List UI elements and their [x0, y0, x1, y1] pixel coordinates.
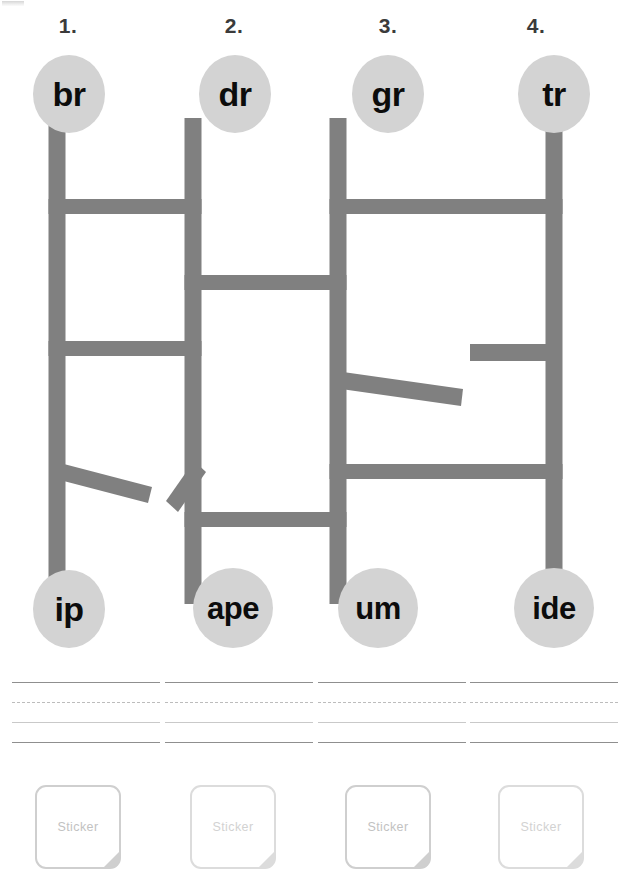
writing-line-base: [470, 742, 618, 743]
onset-label-3: gr: [372, 77, 405, 111]
maze-rung-3-4-lower: [330, 464, 563, 479]
rime-bubble-3[interactable]: um: [338, 568, 418, 648]
writing-lines-4[interactable]: [470, 682, 618, 744]
maze-diagonal-col3-right: [334, 371, 463, 406]
onset-bubble-3[interactable]: gr: [352, 55, 424, 133]
sticker-box-2[interactable]: Sticker: [190, 785, 276, 869]
onset-label-1: br: [53, 77, 86, 111]
writing-line-base: [165, 742, 313, 743]
writing-line-light: [318, 722, 466, 723]
writing-line-light: [12, 722, 160, 723]
writing-lines-1[interactable]: [12, 682, 160, 744]
writing-line-light: [470, 722, 618, 723]
maze-vertical-1: [49, 118, 66, 604]
page-fold-icon: [258, 851, 275, 868]
page-fold-icon: [413, 851, 430, 868]
writing-line-dashed: [318, 702, 466, 703]
onset-label-2: dr: [219, 77, 252, 111]
rime-bubble-1[interactable]: ip: [33, 570, 105, 648]
maze-rung-1-2-mid: [49, 341, 202, 356]
writing-lines-2[interactable]: [165, 682, 313, 744]
maze-path-graphic: [0, 0, 628, 889]
writing-line-dashed: [470, 702, 618, 703]
rime-label-1: ip: [54, 592, 83, 626]
writing-line-dashed: [165, 702, 313, 703]
writing-line-base: [318, 742, 466, 743]
sticker-box-4[interactable]: Sticker: [498, 785, 584, 869]
writing-line-top: [318, 682, 466, 683]
rime-bubble-4[interactable]: ide: [514, 568, 594, 648]
page-fold-icon: [566, 851, 583, 868]
maze-vertical-2: [185, 118, 202, 604]
writing-line-top: [165, 682, 313, 683]
page-fold-icon: [103, 851, 120, 868]
maze-vertical-3: [330, 118, 347, 604]
rime-label-3: um: [355, 593, 401, 624]
sticker-label: Sticker: [57, 820, 98, 834]
onset-bubble-4[interactable]: tr: [518, 55, 590, 133]
onset-bubble-1[interactable]: br: [33, 55, 105, 133]
rime-label-4: ide: [532, 593, 575, 624]
worksheet-page: 1. 2. 3. 4. br dr: [0, 0, 628, 889]
writing-line-top: [470, 682, 618, 683]
sticker-box-1[interactable]: Sticker: [35, 785, 121, 869]
writing-line-base: [12, 742, 160, 743]
rime-bubble-2[interactable]: ape: [193, 568, 273, 648]
writing-line-dashed: [12, 702, 160, 703]
writing-lines-3[interactable]: [318, 682, 466, 744]
sticker-label: Sticker: [212, 820, 253, 834]
maze-stub-col4-left: [470, 344, 562, 361]
maze-rung-2-3-lower: [185, 512, 347, 527]
maze-diagonal-col1-right: [56, 463, 152, 503]
sticker-box-3[interactable]: Sticker: [345, 785, 431, 869]
onset-bubble-2[interactable]: dr: [199, 55, 271, 133]
sticker-label: Sticker: [367, 820, 408, 834]
rime-label-2: ape: [207, 593, 259, 624]
maze-rung-3-4-upper: [330, 199, 563, 214]
writing-line-top: [12, 682, 160, 683]
writing-line-light: [165, 722, 313, 723]
maze-rung-2-3-mid: [185, 275, 347, 290]
sticker-label: Sticker: [520, 820, 561, 834]
maze-rung-1-2-upper: [49, 199, 202, 214]
onset-label-4: tr: [542, 77, 566, 111]
